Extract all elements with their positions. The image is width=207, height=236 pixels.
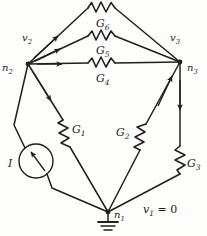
voltage-label-v3: v3 [170,33,180,46]
node-dot-n2 [26,62,31,67]
current-source-label: I [8,158,12,169]
current-arrow-g1 [33,72,51,101]
wire-g1-to-n1 [70,147,108,212]
wire-g2-to-n3 [146,62,180,124]
component-label-g3: G3 [187,158,201,172]
current-source-circle [19,144,53,178]
node-label-n2: n2 [2,63,13,76]
current-arrow-g6 [34,36,58,58]
resistor-g1-zigzag [58,120,70,147]
node-label-n1: n1 [114,210,125,223]
component-label-g2: G2 [116,127,130,141]
resistor-g6-zigzag [88,2,115,12]
branch-current-source [14,64,108,212]
wire-n2-to-source [14,64,28,148]
resistor-g3-zigzag [175,146,185,174]
component-label-g5: G5 [96,45,110,59]
node-dot-n3 [178,60,183,65]
component-label-g4: G4 [96,73,110,87]
current-arrow-g2 [158,76,172,106]
component-label-g1: G1 [72,124,86,138]
circuit-diagram-canvas: G6 G5 G4 G1 G2 G3 v2 v3 n2 n3 n1 I v1 = … [0,0,207,236]
current-arrow-g5 [35,49,60,61]
node-label-n3: n3 [187,63,198,76]
wire-n1-to-g2 [108,150,140,212]
voltage-label-v2: v2 [22,33,32,46]
current-source-arrow [31,152,45,171]
resistor-g2-zigzag [134,124,146,150]
wire-source-to-n1 [47,174,108,212]
component-label-g6: G6 [96,18,110,32]
wire-g4-to-n3 [115,62,180,63]
ground-reference-equation: v1 = 0 [143,204,177,218]
